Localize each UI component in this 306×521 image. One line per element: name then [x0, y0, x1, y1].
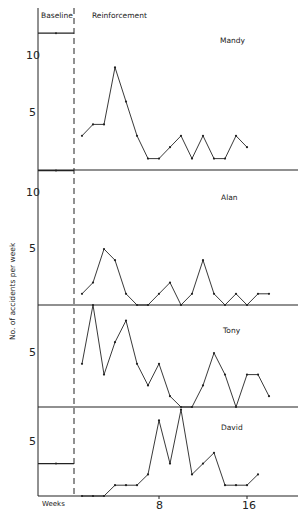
phase-label-reinforcement: Reinforcement [92, 11, 147, 20]
data-point-tony [114, 341, 116, 343]
data-point-david [125, 484, 127, 486]
data-point-alan [257, 293, 259, 295]
data-point-mandy [158, 158, 160, 160]
data-line-alan [82, 249, 269, 305]
data-point-david [136, 484, 138, 486]
data-point-david [257, 473, 259, 475]
data-point-alan [81, 293, 83, 295]
baseline-point-david [55, 463, 57, 465]
y-tick-alan-5: 5 [29, 242, 36, 255]
y-tick-tony-5: 5 [29, 346, 36, 359]
data-point-david [81, 495, 83, 497]
data-point-david [213, 452, 215, 454]
data-point-tony [235, 406, 237, 408]
data-point-david [224, 484, 226, 486]
x-tick-8: 8 [156, 499, 163, 512]
data-point-alan [180, 304, 182, 306]
data-point-mandy [169, 146, 171, 148]
data-point-david [92, 495, 94, 497]
data-point-mandy [103, 123, 105, 125]
data-point-mandy [147, 158, 149, 160]
panel-name-alan: Alan [221, 193, 238, 202]
data-point-alan [114, 259, 116, 261]
y-tick-alan-10: 10 [26, 186, 40, 199]
y-tick-david-5: 5 [29, 435, 36, 448]
data-point-tony [103, 374, 105, 376]
data-point-tony [125, 320, 127, 322]
data-point-alan [158, 293, 160, 295]
data-point-mandy [224, 158, 226, 160]
baseline-point-alan [55, 170, 57, 172]
data-point-david [235, 484, 237, 486]
data-point-david [169, 463, 171, 465]
data-point-mandy [191, 158, 193, 160]
data-point-tony [213, 352, 215, 354]
baseline-point-mandy [55, 32, 57, 34]
data-point-mandy [136, 135, 138, 137]
data-point-alan [136, 304, 138, 306]
data-point-david [246, 484, 248, 486]
data-point-alan [191, 293, 193, 295]
data-line-mandy [82, 67, 247, 158]
data-point-mandy [114, 66, 116, 68]
data-point-david [103, 495, 105, 497]
phase-label-baseline: Baseline [41, 11, 73, 20]
data-point-mandy [81, 135, 83, 137]
data-point-tony [180, 406, 182, 408]
data-point-tony [81, 363, 83, 365]
data-point-mandy [92, 123, 94, 125]
data-point-alan [103, 248, 105, 250]
data-point-mandy [202, 135, 204, 137]
x-tick-16: 16 [242, 499, 256, 512]
data-point-tony [191, 406, 193, 408]
data-point-alan [169, 282, 171, 284]
data-point-alan [92, 282, 94, 284]
data-point-tony [224, 374, 226, 376]
data-point-mandy [235, 135, 237, 137]
data-line-tony [82, 305, 269, 407]
y-tick-mandy-10: 10 [26, 49, 40, 62]
multi-panel-line-chart [0, 0, 306, 521]
panel-name-david: David [221, 423, 243, 432]
data-point-alan [213, 293, 215, 295]
data-point-david [158, 419, 160, 421]
data-point-tony [246, 374, 248, 376]
panel-name-tony: Tony [223, 326, 240, 335]
data-point-tony [202, 384, 204, 386]
data-point-david [147, 473, 149, 475]
panel-name-mandy: Mandy [220, 36, 245, 45]
data-point-alan [246, 304, 248, 306]
data-point-mandy [246, 146, 248, 148]
data-point-alan [235, 293, 237, 295]
data-point-tony [147, 384, 149, 386]
x-axis-label: Weeks [42, 500, 65, 508]
data-point-tony [158, 363, 160, 365]
data-point-tony [92, 304, 94, 306]
data-point-david [114, 484, 116, 486]
data-point-alan [147, 304, 149, 306]
data-point-david [202, 463, 204, 465]
data-point-mandy [180, 135, 182, 137]
data-point-tony [257, 374, 259, 376]
y-tick-mandy-5: 5 [29, 106, 36, 119]
y-axis-label: No. of accidents per week [8, 243, 17, 340]
data-point-david [180, 409, 182, 411]
data-point-tony [136, 363, 138, 365]
data-point-mandy [125, 101, 127, 103]
data-point-alan [125, 293, 127, 295]
data-point-alan [224, 304, 226, 306]
data-point-david [191, 473, 193, 475]
data-point-mandy [213, 158, 215, 160]
data-point-alan [268, 293, 270, 295]
data-point-tony [169, 395, 171, 397]
data-point-alan [202, 259, 204, 261]
data-point-tony [268, 395, 270, 397]
